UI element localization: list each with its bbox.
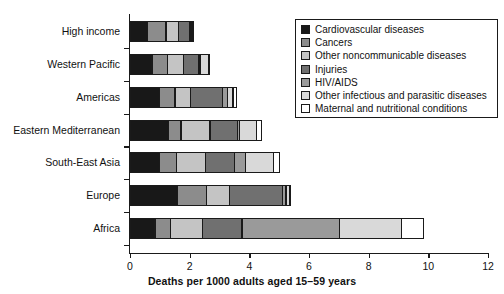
x-axis-tick (488, 253, 489, 258)
bar-segment (242, 218, 340, 239)
y-axis-tick (124, 48, 129, 49)
bar-africa (130, 218, 424, 239)
category-label: South-East Asia (45, 157, 120, 168)
x-axis-tick (249, 253, 250, 258)
x-axis-tick (369, 253, 370, 258)
bar-segment (130, 54, 152, 75)
bar-segment (159, 87, 175, 108)
y-axis-tick (124, 212, 129, 213)
legend-swatch-icon (301, 25, 310, 34)
bar-segment (206, 185, 230, 206)
bar-segment (239, 120, 257, 141)
legend-swatch-icon (301, 91, 310, 100)
x-axis-tick (428, 253, 429, 258)
legend-label: Injuries (315, 64, 347, 75)
legend-item: Maternal and nutritional conditions (301, 102, 493, 115)
bar-segment (192, 21, 194, 42)
bar-segment (152, 54, 168, 75)
bar-europe (130, 185, 291, 206)
bar-segment (147, 21, 166, 42)
bar-segment (168, 120, 181, 141)
bar-segment (178, 21, 190, 42)
legend-item: Other noncommunicable diseases (301, 49, 493, 62)
bar-segment (190, 87, 223, 108)
category-label: High income (62, 26, 120, 37)
bar-segment (177, 185, 207, 206)
legend-label: Maternal and nutritional conditions (315, 103, 467, 114)
y-axis-tick (124, 81, 129, 82)
bar-segment (256, 120, 262, 141)
x-axis-tick-label: 10 (413, 260, 443, 272)
y-axis-line (129, 14, 130, 254)
x-axis-title: Deaths per 1000 adults aged 15–59 years (0, 275, 504, 287)
bar-eastern-mediterranean (130, 120, 262, 141)
category-axis-labels: High incomeWestern PacificAmericasEaster… (0, 15, 126, 245)
x-axis-tick-label: 12 (473, 260, 503, 272)
legend-swatch-icon (301, 65, 310, 74)
stacked-bar-chart: High incomeWestern PacificAmericasEaster… (0, 0, 504, 294)
bar-segment (130, 218, 155, 239)
x-axis-tick (309, 253, 310, 258)
bar-segment (401, 218, 423, 239)
x-axis-tick-label: 8 (354, 260, 384, 272)
chart-legend: Cardiovascular diseasesCancersOther nonc… (295, 19, 498, 118)
x-axis-tick-label: 6 (294, 260, 324, 272)
bar-segment (233, 87, 237, 108)
x-axis-tick (190, 253, 191, 258)
bar-segment (202, 218, 242, 239)
x-axis-tick-label: 0 (115, 260, 145, 272)
legend-label: Cancers (315, 37, 352, 48)
category-label: Western Pacific (47, 59, 120, 70)
y-axis-tick (124, 245, 129, 246)
category-label: Africa (93, 223, 120, 234)
bar-segment (245, 152, 273, 173)
bar-western-pacific (130, 54, 210, 75)
bar-high-income (130, 21, 194, 42)
bar-segment (234, 152, 246, 173)
bar-segment (167, 54, 183, 75)
category-label: Americas (76, 92, 120, 103)
bar-segment (159, 152, 177, 173)
y-axis-tick (124, 114, 129, 115)
legend-item: Cancers (301, 36, 493, 49)
bar-segment (229, 185, 283, 206)
legend-label: Cardiovascular diseases (315, 24, 424, 35)
bar-segment (183, 54, 199, 75)
legend-label: Other noncommunicable diseases (315, 50, 466, 61)
bar-americas (130, 87, 237, 108)
legend-item: Cardiovascular diseases (301, 23, 493, 36)
x-axis-tick-label: 4 (234, 260, 264, 272)
legend-swatch-icon (301, 51, 310, 60)
legend-item: Other infectious and parasitic diseases (301, 89, 493, 102)
x-axis-tick-label: 2 (175, 260, 205, 272)
bar-segment (289, 185, 291, 206)
legend-label: Other infectious and parasitic diseases (315, 90, 487, 101)
bar-segment (205, 152, 235, 173)
legend-swatch-icon (301, 78, 310, 87)
bar-segment (175, 87, 191, 108)
bar-segment (176, 152, 206, 173)
legend-item: Injuries (301, 63, 493, 76)
bar-segment (155, 218, 171, 239)
bar-south-east-asia (130, 152, 280, 173)
x-axis-tick (130, 253, 131, 258)
bar-segment (130, 120, 169, 141)
bar-segment (166, 21, 179, 42)
bar-segment (339, 218, 402, 239)
bar-segment (210, 120, 238, 141)
bar-segment (130, 21, 148, 42)
legend-item: HIV/AIDS (301, 76, 493, 89)
category-label: Europe (86, 190, 120, 201)
category-label: Eastern Mediterranean (13, 125, 120, 136)
legend-label: HIV/AIDS (315, 77, 358, 88)
legend-swatch-icon (301, 38, 310, 47)
bar-segment (130, 152, 160, 173)
bar-segment (208, 54, 210, 75)
y-axis-tick (124, 146, 129, 147)
bar-segment (130, 185, 178, 206)
bar-segment (273, 152, 280, 173)
bar-segment (170, 218, 203, 239)
legend-swatch-icon (301, 104, 310, 113)
bar-segment (130, 87, 160, 108)
bar-segment (181, 120, 211, 141)
